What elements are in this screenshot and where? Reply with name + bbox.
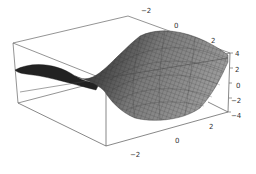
right-axis-tick-label: 0 bbox=[236, 82, 240, 90]
saddle-surface bbox=[15, 30, 228, 120]
top-axis-tick-label: 0 bbox=[174, 22, 178, 30]
right-axis-tick-label: 2 bbox=[235, 66, 239, 74]
right-axis-tick-label: −4 bbox=[231, 112, 241, 120]
bottom-axis-tick-label: 0 bbox=[175, 137, 179, 145]
surface-plot bbox=[0, 0, 256, 174]
right-axis-tick-label: 4 bbox=[235, 50, 239, 58]
right-axis-tick-label: −2 bbox=[231, 97, 241, 105]
bottom-axis-tick-label: 2 bbox=[209, 123, 213, 131]
top-axis-tick-label: −2 bbox=[141, 7, 151, 15]
top-axis-tick-label: 2 bbox=[211, 37, 215, 45]
bottom-axis-tick-label: −2 bbox=[130, 151, 140, 159]
